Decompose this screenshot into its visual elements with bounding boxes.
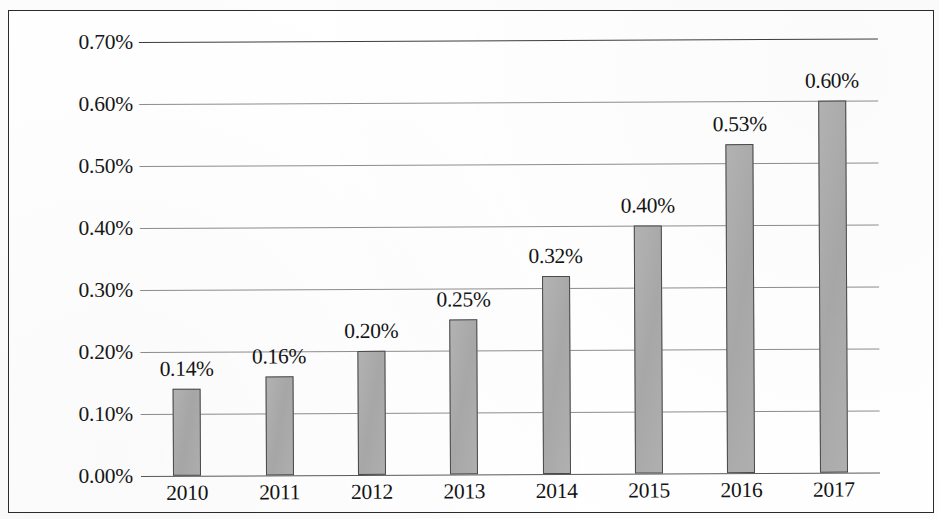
x-axis-tick-label: 2013 <box>416 479 512 503</box>
bar <box>818 101 848 473</box>
bar-value-label: 0.60% <box>784 70 880 92</box>
bar-value-label: 0.32% <box>508 245 604 267</box>
bar-value-label: 0.16% <box>231 346 327 368</box>
gridline <box>139 100 878 105</box>
bar-value-label: 0.40% <box>600 195 696 217</box>
x-axis-tick-label: 2010 <box>139 481 235 505</box>
x-axis-tick-label: 2016 <box>693 478 789 502</box>
bar <box>542 276 571 475</box>
plot-wrapper: 0.14%0.16%0.20%0.25%0.32%0.40%0.53%0.60% <box>0 0 939 519</box>
bar <box>726 144 756 473</box>
x-axis-tick-label: 2011 <box>232 480 328 504</box>
plot-area: 0.14%0.16%0.20%0.25%0.32%0.40%0.53%0.60% <box>139 38 880 476</box>
bar <box>357 351 386 475</box>
gridline <box>140 224 879 229</box>
bar-value-label: 0.53% <box>692 114 788 136</box>
gridline <box>141 472 880 477</box>
bar <box>173 389 201 476</box>
bar-value-label: 0.14% <box>139 359 235 381</box>
x-axis-tick-label: 2017 <box>786 477 882 501</box>
x-axis-tick-label: 2015 <box>601 478 697 502</box>
chart-figure: 0.00%0.10%0.20%0.30%0.40%0.50%0.60%0.70%… <box>0 0 939 519</box>
bar <box>265 376 293 475</box>
gridline <box>139 162 878 167</box>
gridline <box>141 410 880 415</box>
bar <box>450 319 479 474</box>
x-axis-tick-labels: 20102011201220132014201520162017 <box>141 477 880 513</box>
x-axis-tick-label: 2012 <box>324 480 420 504</box>
gridline <box>139 38 878 43</box>
bar-value-label: 0.20% <box>323 321 419 343</box>
bar <box>634 225 663 473</box>
x-axis-tick-label: 2014 <box>509 479 605 503</box>
bar-value-label: 0.25% <box>415 289 511 311</box>
